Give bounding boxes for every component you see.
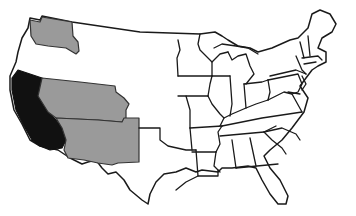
us-map-svg	[0, 0, 356, 216]
region-arizona-new-mexico	[56, 118, 139, 165]
us-map	[0, 0, 356, 216]
